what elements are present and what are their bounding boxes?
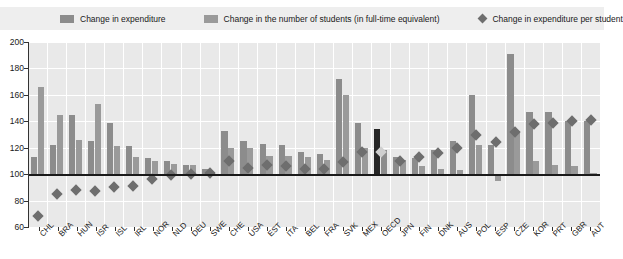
bar-expenditure-cze	[507, 54, 513, 174]
bar-students-bra	[57, 115, 63, 174]
bar-expenditure-aut	[584, 121, 590, 174]
x-axis-label-cell: BRA	[48, 230, 67, 259]
legend-label-expenditure-per-student: Change in expenditure per student	[492, 14, 622, 24]
chart-category-ita	[277, 42, 296, 227]
y-axis-tick-label: 160	[10, 90, 24, 100]
x-axis-label-cell: FRA	[314, 230, 333, 259]
x-axis-label-cell: BEL	[295, 230, 314, 259]
chart-category-cze	[506, 42, 525, 227]
x-axis-label-cell: NLD	[162, 230, 181, 259]
x-axis-label-cell: GBR	[562, 230, 581, 259]
x-axis-label-cell: KOR	[524, 230, 543, 259]
x-axis-label-cell: ISR	[86, 230, 105, 259]
y-axis-tick-label: 200	[10, 37, 24, 47]
legend-label-expenditure: Change in expenditure	[80, 14, 166, 24]
x-axis-label-cell: POL	[467, 230, 486, 259]
chart-category-est	[258, 42, 277, 227]
x-axis-label-cell: PRT	[543, 230, 562, 259]
legend-swatch-expenditure	[60, 15, 74, 23]
x-axis-label-cell: HUN	[67, 230, 86, 259]
x-axis-label-cell: IRL	[124, 230, 143, 259]
x-axis-label-cell: USA	[238, 230, 257, 259]
chart-category-fra	[315, 42, 334, 227]
y-axis-tick-label: 100	[10, 169, 24, 179]
x-axis-label-cell: JPN	[391, 230, 410, 259]
x-axis-label-cell: SVK	[334, 230, 353, 259]
x-axis-label-cell: SWE	[200, 230, 219, 259]
chart-category-hun	[67, 42, 86, 227]
chart-category-oecd	[372, 42, 391, 227]
x-axis-label-cell: ESP	[486, 230, 505, 259]
x-axis-label-cell: DNK	[429, 230, 448, 259]
bar-expenditure-isl	[107, 123, 113, 175]
x-axis-label-cell: CZE	[505, 230, 524, 259]
legend-swatch-students	[204, 15, 218, 23]
diamond-expenditure-per-student-chl	[32, 211, 43, 222]
chart-category-che	[220, 42, 239, 227]
bar-students-irl	[133, 157, 139, 174]
bar-students-pol	[476, 145, 482, 174]
bar-expenditure-hun	[69, 115, 75, 174]
bar-students-fin	[419, 166, 425, 174]
x-axis-label-cell: CHL	[29, 230, 48, 259]
chart-panel	[29, 42, 600, 227]
bar-students-prt	[552, 165, 558, 174]
x-axis-label-cell: DEU	[181, 230, 200, 259]
bar-students-hun	[76, 140, 82, 174]
reference-line-100	[29, 174, 600, 176]
chart-category-jpn	[391, 42, 410, 227]
diamond-expenditure-per-student-isr	[90, 186, 101, 197]
legend-item-expenditure: Change in expenditure	[60, 14, 166, 24]
chart-category-swe	[201, 42, 220, 227]
bar-students-gbr	[571, 166, 577, 174]
chart-category-bel	[296, 42, 315, 227]
bar-students-isr	[95, 104, 101, 174]
y-axis-tick-label: 60	[15, 222, 24, 232]
diamond-expenditure-per-student-irl	[128, 180, 139, 191]
chart-category-fin	[410, 42, 429, 227]
legend-item-students: Change in the number of students (in ful…	[204, 14, 440, 24]
x-axis-label-cell: NOR	[143, 230, 162, 259]
chart-legend: Change in expenditure Change in the numb…	[0, 7, 604, 30]
chart-category-isl	[105, 42, 124, 227]
chart-category-aus	[448, 42, 467, 227]
bar-students-nor	[152, 161, 158, 174]
chart-plot-area: 6080100120140160180200 CHLBRAHUNISRISLIR…	[0, 36, 604, 259]
legend-label-students: Change in the number of students (in ful…	[224, 14, 440, 24]
bar-expenditure-chl	[31, 157, 37, 174]
y-axis-tick-label: 80	[15, 196, 24, 206]
bar-students-isl	[114, 146, 120, 174]
chart-category-nld	[162, 42, 181, 227]
x-axis-label-cell: EST	[257, 230, 276, 259]
chart-category-aut	[582, 42, 600, 227]
x-axis-labels: CHLBRAHUNISRISLIRLNORNLDDEUSWECHEUSAESTI…	[29, 230, 600, 259]
chart-category-kor	[525, 42, 544, 227]
y-axis-tick-label: 120	[10, 143, 24, 153]
bar-expenditure-nor	[145, 158, 151, 174]
bar-expenditure-gbr	[565, 121, 571, 174]
x-axis-label-cell: OECD	[372, 230, 391, 259]
bar-expenditure-isr	[88, 141, 94, 174]
x-axis-label-cell: AUS	[448, 230, 467, 259]
bar-expenditure-irl	[126, 146, 132, 174]
chart-category-nor	[143, 42, 162, 227]
chart-category-usa	[239, 42, 258, 227]
x-axis-label-cell: CHE	[219, 230, 238, 259]
chart-categories	[29, 42, 600, 227]
bar-students-chl	[38, 87, 44, 174]
x-axis-label-cell: AUT	[581, 230, 600, 259]
chart-category-irl	[124, 42, 143, 227]
chart-category-svk	[334, 42, 353, 227]
chart-category-isr	[86, 42, 105, 227]
bar-expenditure-bra	[50, 145, 56, 174]
chart-category-esp	[487, 42, 506, 227]
legend-item-expenditure-per-student: Change in expenditure per student	[479, 14, 622, 24]
diamond-expenditure-per-student-isl	[109, 182, 120, 193]
diamond-expenditure-per-student-bra	[51, 188, 62, 199]
y-axis-tick-label: 140	[10, 116, 24, 126]
y-axis-tick-label: 180	[10, 63, 24, 73]
x-axis-label-cell: ISL	[105, 230, 124, 259]
chart-category-gbr	[563, 42, 582, 227]
legend-diamond-expenditure-per-student-icon	[478, 14, 488, 24]
